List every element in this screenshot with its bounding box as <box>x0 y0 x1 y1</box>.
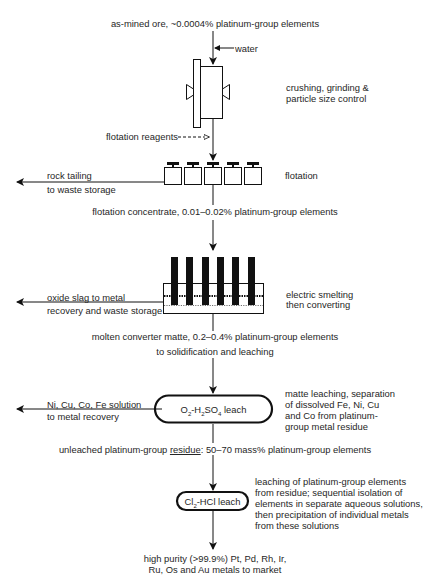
matte-leach-desc-line1: matte leaching, separation <box>285 388 395 399</box>
flotation-reagents-label: flotation reagents <box>106 131 178 142</box>
matte-leach-desc-line2: of dissolved Fe, Ni, Cu <box>285 399 379 410</box>
ni-cu-line2: to metal recovery <box>47 411 119 422</box>
smelting-desc-line2: then converting <box>286 299 350 310</box>
residue-word: residue <box>170 444 201 455</box>
pgm-leach-desc-line1: leaching of platinum-group elements <box>255 476 406 487</box>
crushing-desc-line1: crushing, grinding & <box>286 82 369 93</box>
rock-tailing-line2: to waste storage <box>47 184 116 195</box>
pgm-leach-desc-line2: from residue; sequential isolation of <box>255 487 402 498</box>
crushing-desc-line2: particle size control <box>286 93 366 104</box>
matte-label-line1: molten converter matte, 0.2–0.4% platinu… <box>60 331 370 342</box>
oxide-slag-line2: recovery and waste storage <box>47 305 162 316</box>
label-part: -H <box>191 404 201 415</box>
oxide-slag-line1: oxide slag to metal <box>47 292 125 303</box>
smelter-furnace-icon <box>164 257 264 314</box>
residue-prefix: unleached platinum-group <box>59 444 170 455</box>
rock-tailing-line1: rock tailing <box>47 170 92 181</box>
ni-cu-line1: Ni, Cu, Co, Fe solution <box>47 399 141 410</box>
o2-leach-box-label: O2-H2SO4 leach <box>155 404 272 420</box>
flotation-desc: flotation <box>285 170 318 181</box>
pgm-leach-desc-line3: elements in separate aqueous solutions, <box>255 498 423 509</box>
crusher-icon <box>187 60 230 128</box>
water-label: water <box>235 43 258 54</box>
label-part: -HCl leach <box>197 496 241 507</box>
label-part: leach <box>221 404 246 415</box>
matte-leach-desc-line4: group metal residue <box>285 421 368 432</box>
matte-label-line2: to solidification and leaching <box>60 346 370 357</box>
cl2-leach-box-label: Cl2-HCl leach <box>177 496 248 512</box>
product-line2: Ru, Os and Au metals to market <box>60 564 370 575</box>
pgm-leach-desc-line4: then precipitation of individual metals <box>255 509 409 520</box>
label-part: SO <box>204 404 218 415</box>
residue-suffix: : 50–70 mass% platinum-group elements <box>201 444 371 455</box>
matte-leach-desc-line3: and Co from platinum- <box>285 410 378 421</box>
flotation-concentrate-label: flotation concentrate, 0.01–0.02% platin… <box>60 206 370 217</box>
label-part: O <box>181 404 188 415</box>
pgm-leach-desc-line5: from these solutions <box>255 520 339 531</box>
flotation-cells-icon <box>165 162 262 185</box>
product-line1: high purity (>99.9%) Pt, Pd, Rh, Ir, <box>60 553 370 564</box>
residue-label: unleached platinum-group residue: 50–70 … <box>40 444 390 455</box>
ore-label: as-mined ore, ~0.0004% platinum-group el… <box>60 18 370 29</box>
